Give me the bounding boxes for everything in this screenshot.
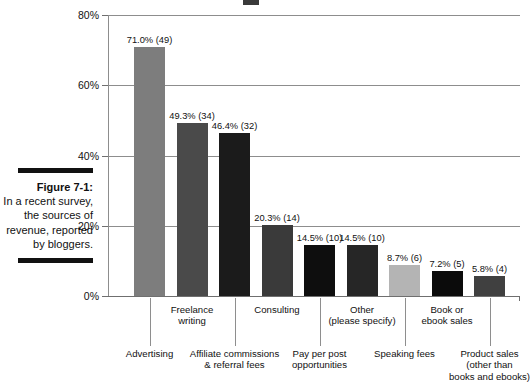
caption-rule-top xyxy=(18,168,93,173)
bar-value-label: 71.0% (49) xyxy=(127,35,172,45)
category-label: Other(please specify) xyxy=(328,304,395,327)
plot-area: 0%20%40%60%80%71.0% (49)49.3% (34)46.4% … xyxy=(108,15,520,296)
category-label: Pay per postopportunities xyxy=(292,348,347,371)
bar-value-label: 14.5% (10) xyxy=(297,233,342,243)
x-axis-line xyxy=(108,296,520,297)
bar-value-label: 14.5% (10) xyxy=(339,233,384,243)
bar[interactable]: 8.7% (6) xyxy=(389,265,420,296)
category-leader-line xyxy=(235,298,236,346)
bar-slot: 8.7% (6) xyxy=(389,15,420,296)
category-label: Book orebook sales xyxy=(421,304,472,327)
bar-slot: 7.2% (5) xyxy=(432,15,463,296)
bar[interactable]: 71.0% (49) xyxy=(134,47,165,296)
bar-value-label: 20.3% (14) xyxy=(254,213,299,223)
bar-value-label: 5.8% (4) xyxy=(472,264,507,274)
category-label: Affiliate commissions& referral fees xyxy=(190,348,279,371)
bar-slot: 5.8% (4) xyxy=(474,15,505,296)
category-label-layer: AdvertisingFreelancewritingAffiliate com… xyxy=(0,296,530,391)
x-axis-end-tick xyxy=(519,296,520,301)
y-axis-tick-label: 60% xyxy=(78,79,99,91)
bar-value-label: 7.2% (5) xyxy=(429,259,464,269)
bar[interactable]: 14.5% (10) xyxy=(304,245,335,296)
category-leader-line xyxy=(490,298,491,346)
y-axis-tick-label: 40% xyxy=(78,150,99,162)
bar-slot: 46.4% (32) xyxy=(219,15,250,296)
bar-value-label: 46.4% (32) xyxy=(212,121,257,131)
category-label: Advertising xyxy=(126,348,173,359)
page-header-stub xyxy=(243,0,259,5)
caption-title: Figure 7-1: xyxy=(3,180,93,194)
figure-caption: Figure 7-1: In a recent survey, the sour… xyxy=(3,168,93,263)
bar[interactable]: 14.5% (10) xyxy=(347,245,378,296)
caption-text: Figure 7-1: In a recent survey, the sour… xyxy=(3,180,93,251)
tick-mark xyxy=(102,226,108,227)
bar[interactable]: 7.2% (5) xyxy=(432,271,463,296)
y-axis-tick-label: 20% xyxy=(78,220,99,232)
bar[interactable]: 49.3% (34) xyxy=(177,123,208,296)
bar[interactable]: 20.3% (14) xyxy=(262,225,293,296)
bar-value-label: 8.7% (6) xyxy=(387,253,422,263)
category-label: Speaking fees xyxy=(374,348,435,359)
bar-slot: 71.0% (49) xyxy=(134,15,165,296)
bar[interactable]: 5.8% (4) xyxy=(474,276,505,296)
bar-value-label: 49.3% (34) xyxy=(169,111,214,121)
bar-slot: 14.5% (10) xyxy=(304,15,335,296)
tick-mark xyxy=(102,15,108,16)
bar-slot: 49.3% (34) xyxy=(177,15,208,296)
category-label: Consulting xyxy=(254,304,299,315)
tick-mark xyxy=(102,85,108,86)
y-axis-tick-label: 80% xyxy=(78,9,99,21)
category-label: Freelancewriting xyxy=(171,304,214,327)
tick-mark xyxy=(102,156,108,157)
bar-slot: 20.3% (14) xyxy=(262,15,293,296)
category-label: Product sales(other thanbooks and ebooks… xyxy=(449,348,530,382)
category-leader-line xyxy=(320,298,321,346)
category-leader-line xyxy=(150,298,151,346)
bar[interactable]: 46.4% (32) xyxy=(219,133,250,296)
bar-slot: 14.5% (10) xyxy=(347,15,378,296)
caption-rule-bottom xyxy=(18,258,93,263)
category-leader-line xyxy=(405,298,406,346)
